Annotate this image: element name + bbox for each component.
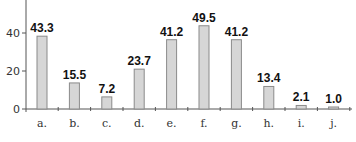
data-label: 15.5: [63, 68, 87, 82]
data-label: 7.2: [98, 82, 115, 96]
data-label: 41.2: [225, 25, 249, 39]
data-label: 43.3: [30, 21, 54, 35]
bar-g: [231, 40, 241, 109]
bar-f: [199, 26, 209, 109]
x-category-label: c.: [102, 117, 112, 130]
bar-j: [329, 107, 339, 109]
bar-h: [264, 86, 274, 109]
bar-a: [37, 36, 47, 109]
data-label: 41.2: [160, 25, 184, 39]
data-label: 1.0: [325, 92, 342, 106]
x-category-label: i.: [298, 117, 305, 130]
x-category-label: e.: [167, 117, 177, 130]
x-category-label: a.: [37, 117, 47, 130]
x-category-label: g.: [231, 117, 242, 130]
bar-i: [296, 105, 306, 109]
y-tick-label: 20: [6, 65, 20, 78]
x-category-label: d.: [134, 117, 145, 130]
x-category-label: j.: [328, 117, 337, 130]
bar-e: [167, 40, 177, 109]
y-axis: 02040: [6, 0, 26, 116]
x-category-label: f.: [200, 117, 207, 130]
x-category-label: b.: [69, 117, 80, 130]
y-tick-label: 0: [13, 103, 20, 116]
x-axis: a.b.c.d.e.f.g.h.i.j.: [26, 107, 352, 130]
bar-chart: 02040 a.b.c.d.e.f.g.h.i.j. 43.315.57.223…: [0, 0, 356, 142]
bar-c: [102, 97, 112, 109]
data-label: 13.4: [257, 71, 281, 85]
data-label: 49.5: [192, 11, 216, 25]
y-tick-label: 40: [6, 27, 20, 40]
data-label: 23.7: [128, 54, 152, 68]
bars: 43.315.57.223.741.249.541.213.42.11.0: [30, 11, 342, 109]
bar-d: [134, 69, 144, 109]
bar-b: [69, 83, 79, 109]
x-category-label: h.: [264, 117, 275, 130]
data-label: 2.1: [293, 90, 310, 104]
